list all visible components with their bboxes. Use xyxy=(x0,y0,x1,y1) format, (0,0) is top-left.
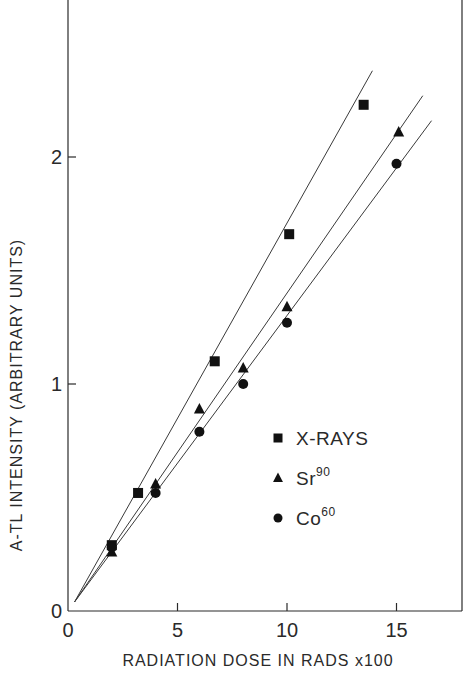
legend-label: Sr90 xyxy=(296,465,330,489)
y-tick-label: 2 xyxy=(51,146,62,168)
circle-marker-icon xyxy=(194,427,204,437)
x-tick-label: 0 xyxy=(62,619,73,641)
legend: X-RAYSSr90Co60 xyxy=(273,428,368,529)
triangle-marker-icon xyxy=(273,473,283,482)
circle-marker-icon xyxy=(282,318,292,328)
x-tick-label: 5 xyxy=(172,619,183,641)
circle-marker-icon xyxy=(151,488,161,498)
square-marker-icon xyxy=(359,100,369,110)
square-marker-icon xyxy=(133,488,143,498)
y-tick-label: 1 xyxy=(51,373,62,395)
x-tick-label: 10 xyxy=(276,619,298,641)
triangle-marker-icon xyxy=(282,301,293,312)
square-marker-icon xyxy=(210,356,220,366)
circle-marker-icon xyxy=(274,514,283,523)
legend-label: Co60 xyxy=(296,505,336,529)
circle-marker-icon xyxy=(107,542,117,552)
fit-line-circle xyxy=(75,121,432,602)
legend-label: X-RAYS xyxy=(296,428,368,449)
y-axis-label: A-TL INTENSITY (ARBITRARY UNITS) xyxy=(8,239,25,551)
circle-marker-icon xyxy=(238,379,248,389)
axes xyxy=(68,0,462,611)
y-tick-label: 0 xyxy=(51,600,62,622)
x-axis-label: RADIATION DOSE IN RADS x100 xyxy=(122,652,393,669)
square-marker-icon xyxy=(274,434,283,443)
data-markers xyxy=(106,100,404,557)
fit-lines xyxy=(75,71,432,602)
triangle-marker-icon xyxy=(238,362,249,373)
triangle-marker-icon xyxy=(194,403,205,414)
x-tick-label: 15 xyxy=(385,619,407,641)
fit-line-square xyxy=(75,71,373,602)
circle-marker-icon xyxy=(392,159,402,169)
square-marker-icon xyxy=(284,229,294,239)
chart: 051015012 X-RAYSSr90Co60 A-TL INTENSITY … xyxy=(0,0,463,675)
triangle-marker-icon xyxy=(150,478,161,489)
fit-line-triangle xyxy=(75,96,423,602)
triangle-marker-icon xyxy=(393,126,404,137)
